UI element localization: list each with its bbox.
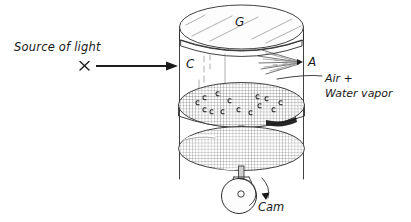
label-source-of-light: Source of light — [14, 40, 101, 54]
light-arrow — [96, 62, 178, 71]
label-chamber: C — [186, 57, 195, 71]
cam-hub — [238, 191, 244, 197]
lower-piston-face — [179, 127, 305, 171]
figure-canvas: G — [0, 0, 411, 222]
label-glass-top: G — [235, 15, 244, 29]
cam-rotation-arrow — [262, 178, 270, 200]
nozzle-tip — [297, 59, 303, 65]
cloud-chamber-diagram: G — [0, 0, 411, 222]
label-gas-line1: Air + — [324, 72, 353, 85]
glass-top-plate — [180, 5, 304, 57]
lower-piston-disc — [179, 127, 305, 172]
source-marker — [80, 62, 89, 71]
upper-piston-disc — [179, 83, 305, 128]
light-arrow-head — [166, 62, 178, 71]
gas-leader-line — [277, 75, 322, 79]
label-nozzle: A — [307, 55, 316, 69]
label-cam: Cam — [258, 200, 284, 214]
spray-lines — [258, 50, 299, 74]
label-gas-line2: Water vapor — [325, 87, 394, 100]
